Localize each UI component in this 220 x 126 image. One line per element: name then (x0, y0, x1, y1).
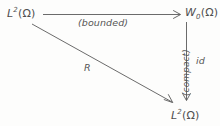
edge-label-id: id (196, 55, 205, 66)
node-source-argument: (Ω) (18, 7, 36, 20)
node-source-l2-omega: L2(Ω) (7, 6, 36, 20)
commutative-diagram: L2(Ω) W0(Ω) L2(Ω) (bounded) (compact) id… (0, 0, 220, 126)
edge-label-compact: (compact) (181, 49, 191, 96)
node-middle-argument: (Ω) (201, 6, 219, 19)
node-target-argument: (Ω) (182, 109, 200, 122)
node-middle-text: W (185, 6, 196, 19)
arrow-diagonal-r (32, 24, 173, 103)
node-target-l2-omega: L2(Ω) (171, 108, 200, 122)
edge-label-bounded: (bounded) (78, 17, 128, 28)
node-middle-w0-omega: W0(Ω) (185, 6, 218, 21)
edge-label-r: R (84, 62, 91, 73)
